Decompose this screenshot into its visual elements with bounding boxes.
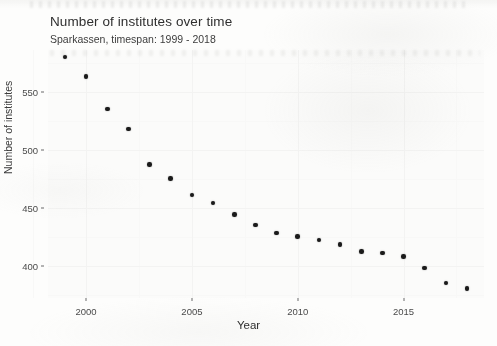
gridline-minor-horizontal <box>48 237 484 238</box>
data-point <box>274 231 279 236</box>
y-tick-mark <box>41 149 44 150</box>
x-tick-label: 2005 <box>181 306 202 317</box>
gridline-minor-horizontal <box>48 121 484 122</box>
gridline-major-horizontal <box>48 92 484 93</box>
data-point <box>380 251 385 256</box>
data-point <box>401 254 406 259</box>
data-point <box>126 127 131 132</box>
data-point <box>422 266 427 271</box>
data-point <box>295 234 300 239</box>
gridline-major-horizontal <box>48 150 484 151</box>
data-point <box>190 193 195 198</box>
data-point <box>359 249 364 254</box>
plot-panel <box>48 50 484 298</box>
data-point <box>105 107 110 112</box>
x-tick-mark <box>297 298 298 301</box>
y-tick-label: 400 <box>22 260 38 271</box>
x-tick-label: 2015 <box>393 306 414 317</box>
data-point <box>147 162 152 167</box>
data-point <box>253 223 258 228</box>
data-point <box>63 55 68 60</box>
y-tick-mark <box>41 265 44 266</box>
data-point <box>338 242 343 247</box>
y-tick-label: 500 <box>22 144 38 155</box>
x-tick-mark <box>86 298 87 301</box>
gridline-minor-vertical <box>139 50 140 298</box>
data-point <box>232 212 237 217</box>
y-tick-mark <box>41 91 44 92</box>
gridline-minor-horizontal <box>48 63 484 64</box>
gridline-major-horizontal <box>48 208 484 209</box>
gridline-major-vertical <box>192 50 193 298</box>
x-tick-mark <box>191 298 192 301</box>
x-axis: 2000200520102015 <box>48 298 484 318</box>
y-axis: 400450500550 <box>10 50 46 298</box>
y-tick-label: 450 <box>22 202 38 213</box>
y-axis-title: Number of institutes <box>2 81 14 174</box>
gridline-major-vertical <box>298 50 299 298</box>
gridline-minor-horizontal <box>48 179 484 180</box>
data-point <box>444 281 449 286</box>
gridline-major-horizontal <box>48 266 484 267</box>
x-axis-title: Year <box>0 319 497 331</box>
data-point <box>317 238 322 243</box>
data-point <box>465 286 470 291</box>
chart-container: Number of institutes over time Sparkasse… <box>0 0 497 346</box>
gridline-minor-vertical <box>456 50 457 298</box>
chart-subtitle: Sparkassen, timespan: 1999 - 2018 <box>50 33 216 45</box>
x-tick-label: 2010 <box>287 306 308 317</box>
gridline-major-vertical <box>404 50 405 298</box>
gridline-minor-horizontal <box>48 295 484 296</box>
data-point <box>84 74 89 79</box>
gridline-minor-vertical <box>245 50 246 298</box>
chart-title: Number of institutes over time <box>50 14 232 29</box>
x-tick-mark <box>403 298 404 301</box>
data-point <box>168 176 173 181</box>
gridline-major-vertical <box>86 50 87 298</box>
y-tick-mark <box>41 207 44 208</box>
x-tick-label: 2000 <box>76 306 97 317</box>
data-point <box>211 201 216 206</box>
y-tick-label: 550 <box>22 86 38 97</box>
gridline-minor-vertical <box>351 50 352 298</box>
